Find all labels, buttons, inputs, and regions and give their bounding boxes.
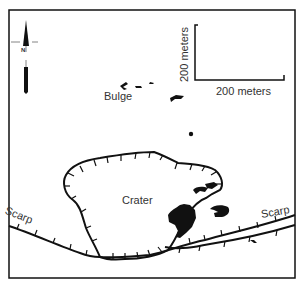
map-canvas [0, 0, 301, 291]
bulge-label: Bulge [104, 90, 132, 102]
scale-bar [195, 25, 284, 80]
scale-horizontal-label: 200 meters [216, 85, 271, 97]
scale-vertical-label: 200 meters [178, 27, 190, 82]
north-label: N [21, 47, 25, 53]
north-arrow-icon [11, 20, 38, 94]
crater-label: Crater [122, 194, 153, 206]
scarp-lines [9, 215, 295, 257]
crater-dark-features [168, 182, 257, 243]
scarp-ticks [17, 216, 277, 255]
map-frame [9, 10, 295, 278]
